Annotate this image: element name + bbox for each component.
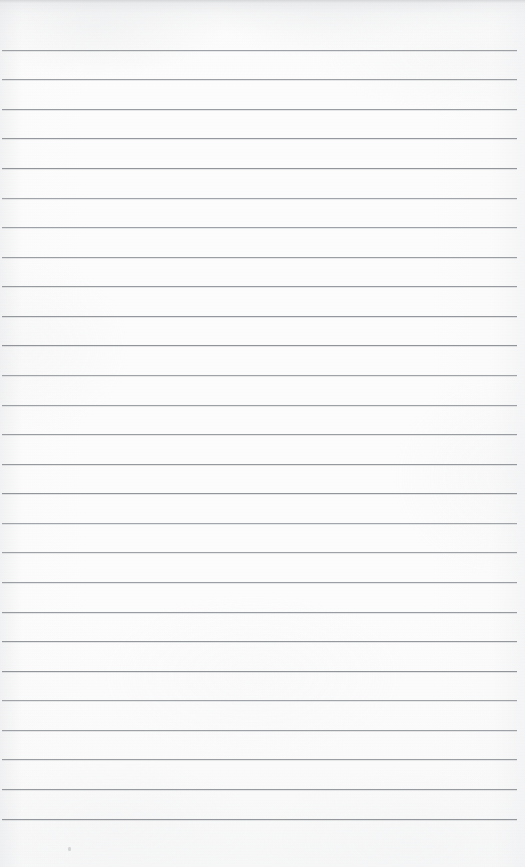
scanned-page	[0, 0, 525, 867]
ruled-line	[2, 819, 517, 820]
writing-area[interactable]	[2, 50, 517, 819]
scan-speck	[68, 847, 71, 851]
